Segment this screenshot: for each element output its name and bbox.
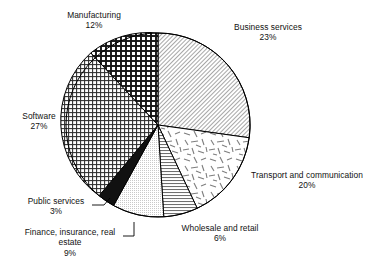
slice-label-software: Software 27% (8, 111, 70, 132)
pie-slice-business-services (158, 33, 250, 138)
slice-label-manufacturing-name: Manufacturing (52, 10, 136, 20)
slice-label-wholesale-and-retail-percent: 6% (163, 233, 277, 243)
slice-label-finance-insurance-real-estate-name: Finance, insurance, real (14, 227, 126, 237)
slice-label-manufacturing-percent: 12% (52, 20, 136, 30)
slice-label-business-services: Business services 23% (216, 22, 320, 43)
pie-chart-figure: Manufacturing 12% Business services 23% … (0, 0, 376, 271)
slice-label-public-services: Public services 3% (8, 196, 104, 217)
slice-label-finance-insurance-real-estate: Finance, insurance, real estate 9% (14, 227, 126, 258)
slice-label-software-name: Software (8, 111, 70, 121)
slice-label-business-services-name: Business services (216, 22, 320, 32)
slice-label-transport-and-communication-percent: 20% (243, 180, 371, 190)
slice-label-wholesale-and-retail: Wholesale and retail 6% (163, 223, 277, 244)
slice-label-manufacturing: Manufacturing 12% (52, 10, 136, 31)
slice-label-finance-insurance-real-estate-percent: 9% (14, 248, 126, 258)
slice-label-transport-and-communication-name: Transport and communication (243, 170, 371, 180)
slice-label-transport-and-communication: Transport and communication 20% (243, 170, 371, 191)
slice-label-public-services-name: Public services (8, 196, 104, 206)
slice-label-wholesale-and-retail-name: Wholesale and retail (163, 223, 277, 233)
slice-label-software-percent: 27% (8, 121, 70, 131)
slice-label-business-services-percent: 23% (216, 32, 320, 42)
slice-label-public-services-percent: 3% (8, 206, 104, 216)
slice-label-finance-insurance-real-estate-name-line2: estate (14, 237, 126, 247)
